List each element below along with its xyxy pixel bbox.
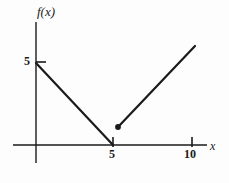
closed-point-dot	[115, 124, 121, 130]
x-tick-label-5: 5	[109, 148, 115, 160]
y-tick-label-5: 5	[24, 55, 30, 67]
x-tick-label-10: 10	[184, 148, 196, 160]
y-axis-label: f(x)	[37, 5, 55, 18]
descending-branch-segment	[36, 63, 113, 145]
ascending-branch-segment	[118, 46, 195, 127]
graph-figure: f(x) x 5 5 10	[0, 0, 229, 183]
x-axis-label: x	[210, 140, 215, 152]
